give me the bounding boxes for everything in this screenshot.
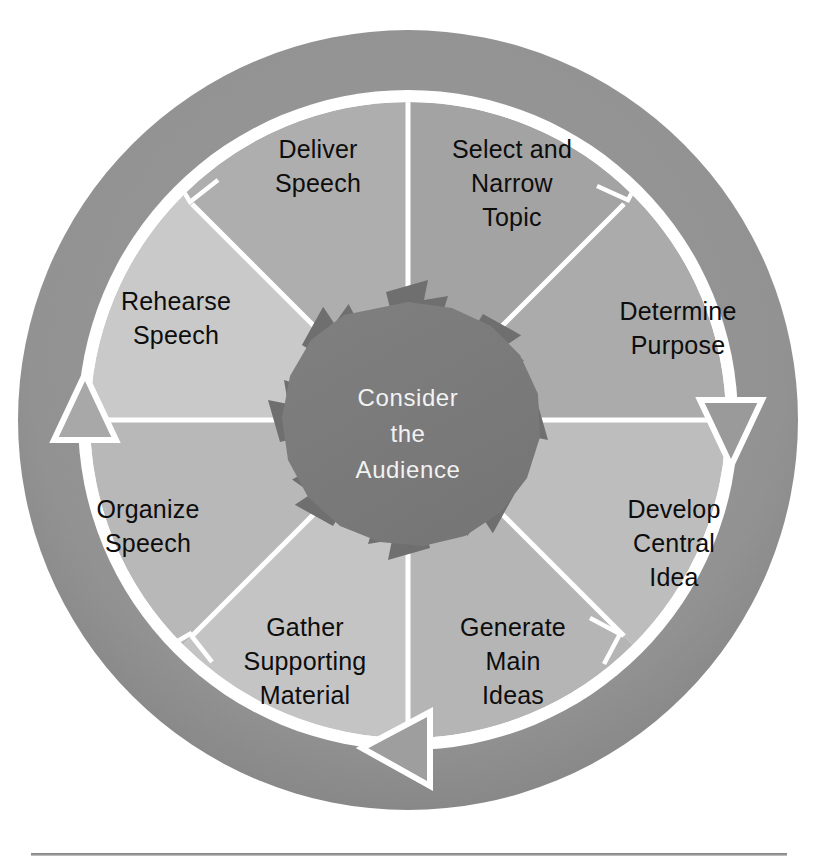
label-line: Select and: [452, 135, 572, 163]
label-line: Ideas: [482, 681, 544, 709]
label-line: Supporting: [244, 647, 367, 675]
label-line: Deliver: [278, 135, 357, 163]
footer-horizontal-rule: [31, 853, 787, 856]
cycle-diagram-svg: Consider the Audience Select and Narrow …: [0, 0, 817, 867]
label-line: Purpose: [631, 331, 726, 359]
hub-label-line-3: Audience: [356, 456, 461, 483]
label-line: Rehearse: [121, 287, 231, 315]
label-line: Organize: [96, 495, 199, 523]
label-line: Speech: [275, 169, 361, 197]
label-line: Topic: [482, 203, 541, 231]
label-line: Central: [633, 529, 715, 557]
label-line: Speech: [133, 321, 219, 349]
label-line: Material: [260, 681, 351, 709]
label-line: Determine: [619, 297, 736, 325]
label-line: Develop: [627, 495, 720, 523]
speechmaking-cycle-diagram: Consider the Audience Select and Narrow …: [0, 0, 817, 867]
label-line: Speech: [105, 529, 191, 557]
hub-label-line-1: Consider: [358, 384, 459, 411]
label-line: Generate: [460, 613, 566, 641]
label-line: Gather: [266, 613, 344, 641]
label-line: Main: [486, 647, 541, 675]
label-line: Idea: [649, 563, 698, 591]
hub-label-line-2: the: [390, 420, 425, 447]
label-line: Narrow: [471, 169, 554, 197]
